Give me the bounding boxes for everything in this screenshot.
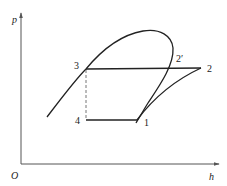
- point-label-4: 4: [75, 115, 80, 126]
- point-label-3: 3: [74, 60, 79, 71]
- x-axis-label: h: [209, 171, 214, 182]
- saturation-curve: [47, 30, 173, 123]
- point-label-1: 1: [144, 117, 149, 128]
- point-label-2: 2: [207, 63, 212, 74]
- origin-label: O: [11, 170, 18, 181]
- p-h-diagram: p h O 3 4 1 2 2′: [0, 0, 227, 186]
- point-label-2-prime: 2′: [176, 53, 183, 64]
- compression-curve-1-2: [137, 68, 201, 120]
- condensation-line-3-2: [86, 68, 201, 69]
- y-axis-label: p: [11, 14, 17, 25]
